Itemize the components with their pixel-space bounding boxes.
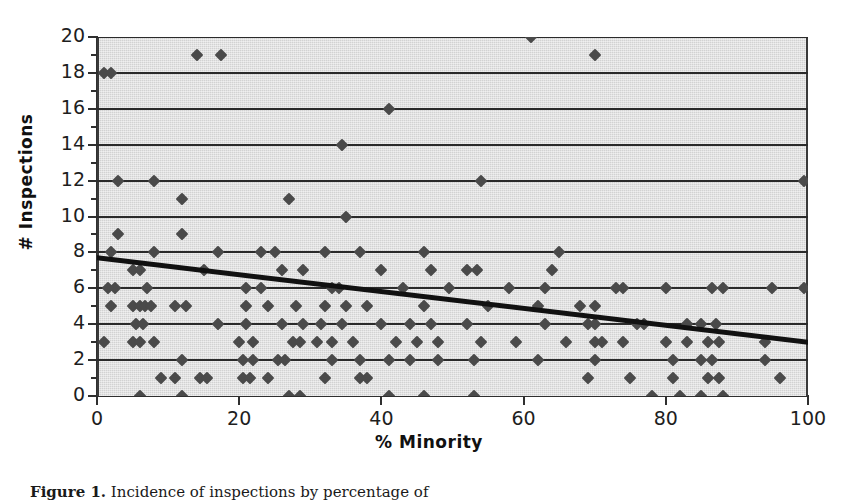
- y-tick-18: [88, 72, 97, 74]
- data-point: [261, 300, 274, 313]
- data-point: [105, 300, 118, 313]
- data-point: [418, 246, 431, 259]
- data-point: [524, 37, 537, 43]
- data-point: [403, 318, 416, 331]
- data-point: [773, 372, 786, 385]
- data-point: [418, 390, 431, 396]
- data-point: [375, 264, 388, 277]
- data-point: [240, 282, 253, 295]
- y-tick-4: [88, 323, 97, 325]
- data-point: [254, 246, 267, 259]
- data-point: [539, 282, 552, 295]
- data-point: [283, 192, 296, 205]
- data-point: [659, 282, 672, 295]
- y-tick-label-18: 18: [51, 62, 85, 81]
- y-tick-8: [88, 251, 97, 253]
- data-point: [176, 354, 189, 367]
- y-tick-label-12: 12: [51, 170, 85, 189]
- x-axis-title: % Minority: [279, 432, 579, 452]
- x-tick-label-100: 100: [778, 408, 838, 428]
- data-point: [105, 246, 118, 259]
- data-point: [667, 372, 680, 385]
- data-point: [148, 336, 161, 349]
- data-point: [418, 300, 431, 313]
- data-point: [759, 336, 772, 349]
- gridline-y-10: [97, 216, 808, 218]
- data-point: [539, 318, 552, 331]
- data-point: [467, 390, 480, 396]
- data-point: [713, 336, 726, 349]
- y-tick-label-8: 8: [51, 241, 85, 260]
- data-point: [382, 354, 395, 367]
- data-point: [318, 300, 331, 313]
- data-point: [681, 318, 694, 331]
- data-point: [425, 264, 438, 277]
- y-tick-minor-13: [91, 162, 97, 164]
- data-point: [546, 264, 559, 277]
- x-tick-20: [238, 396, 240, 405]
- data-point: [354, 246, 367, 259]
- gridline-y-18: [97, 72, 808, 74]
- plot-area: [97, 37, 808, 396]
- data-point: [148, 246, 161, 259]
- data-point: [318, 372, 331, 385]
- data-point: [297, 318, 310, 331]
- y-tick-label-20: 20: [51, 26, 85, 45]
- x-tick-label-40: 40: [351, 408, 411, 428]
- data-point: [339, 300, 352, 313]
- data-point: [432, 336, 445, 349]
- data-point: [176, 390, 189, 396]
- data-point: [325, 354, 338, 367]
- data-point: [588, 300, 601, 313]
- y-axis-title: # Inspections: [16, 82, 36, 282]
- data-point: [617, 336, 630, 349]
- y-tick-minor-9: [91, 233, 97, 235]
- x-tick-label-80: 80: [636, 408, 696, 428]
- y-tick-20: [88, 36, 97, 38]
- data-point: [471, 264, 484, 277]
- data-point: [233, 336, 246, 349]
- data-point: [112, 174, 125, 187]
- scatter-chart-figure: # Inspections 02468101214161820 02040608…: [0, 0, 858, 470]
- data-point: [375, 318, 388, 331]
- data-point: [467, 354, 480, 367]
- y-tick-label-10: 10: [51, 206, 85, 225]
- data-point: [98, 336, 111, 349]
- data-point: [215, 49, 228, 62]
- data-point: [240, 318, 253, 331]
- data-point: [197, 264, 210, 277]
- data-point: [176, 192, 189, 205]
- gridline-y-14: [97, 144, 808, 146]
- data-point: [261, 372, 274, 385]
- data-point: [361, 300, 374, 313]
- gridline-y-12: [97, 180, 808, 182]
- y-tick-label-6: 6: [51, 277, 85, 296]
- data-point: [716, 282, 729, 295]
- data-point: [659, 336, 672, 349]
- gridline-y-20: [97, 37, 808, 38]
- y-tick-label-2: 2: [51, 349, 85, 368]
- data-point: [140, 282, 153, 295]
- y-tick-minor-19: [91, 54, 97, 56]
- y-tick-2: [88, 359, 97, 361]
- data-point: [681, 336, 694, 349]
- data-point: [706, 354, 719, 367]
- data-point: [148, 174, 161, 187]
- data-point: [382, 390, 395, 396]
- gridline-y-8: [97, 251, 808, 253]
- data-point: [190, 49, 203, 62]
- y-tick-16: [88, 108, 97, 110]
- x-tick-80: [665, 396, 667, 405]
- data-point: [396, 282, 409, 295]
- y-tick-label-4: 4: [51, 313, 85, 332]
- gridline-y-16: [97, 108, 808, 110]
- data-point: [475, 174, 488, 187]
- data-point: [311, 336, 324, 349]
- data-point: [254, 282, 267, 295]
- data-point: [443, 282, 456, 295]
- y-tick-14: [88, 144, 97, 146]
- data-point: [695, 390, 708, 396]
- data-point: [180, 300, 193, 313]
- y-tick-label-14: 14: [51, 134, 85, 153]
- y-tick-label-16: 16: [51, 98, 85, 117]
